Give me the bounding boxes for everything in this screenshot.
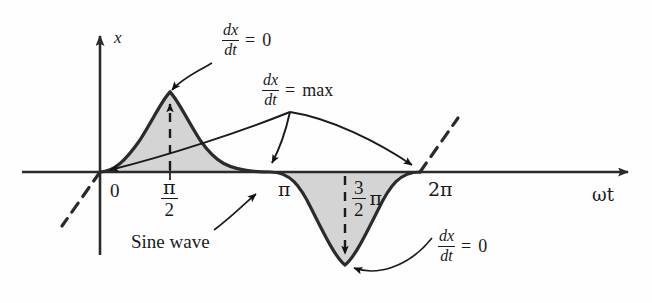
tick-label-two-pi: 2π [428, 180, 453, 199]
leader-slope-twopi [290, 112, 412, 165]
trough-derivative-numerator: dx [438, 228, 455, 245]
annotation-trough-derivative: dx dt = 0 [438, 228, 487, 265]
half-pi-numerator: π [161, 178, 178, 197]
x-axis-label: ωt [592, 186, 614, 204]
three-half-pi-suffix: π [370, 189, 383, 208]
tick-label-zero: 0 [110, 181, 120, 200]
annotation-slope-max-derivative: dx dt = max [262, 72, 333, 109]
annotation-peak-derivative: dx dt = 0 [222, 22, 271, 59]
leader-peak [172, 63, 212, 90]
trough-derivative-equals: = [461, 237, 471, 255]
tick-label-pi: π [278, 180, 291, 199]
leader-slope-pi [272, 112, 290, 163]
sine-wave-plot [0, 0, 652, 303]
sine-wave-figure: x ωt 0 π 2 π 3 2 π 2π dx dt = [0, 0, 652, 303]
tangent-extension-origin [62, 172, 100, 226]
slope-max-derivative-numerator: dx [262, 72, 279, 89]
shaded-region-negative [270, 172, 420, 265]
leader-sine-wave [214, 194, 256, 230]
y-axis-label: x [114, 29, 122, 46]
sine-wave-caption: Sine wave [131, 232, 210, 251]
tangent-extension-twopi [420, 118, 458, 172]
trough-derivative-denominator: dt [438, 248, 455, 265]
three-half-pi-denominator: 2 [352, 200, 366, 219]
tick-label-half-pi: π 2 [161, 178, 178, 220]
peak-derivative-denominator: dt [222, 42, 239, 59]
peak-derivative-numerator: dx [222, 22, 239, 39]
leader-trough [354, 238, 432, 271]
trough-derivative-value: 0 [478, 237, 487, 255]
slope-max-derivative-equals: = [285, 81, 295, 99]
peak-derivative-value: 0 [262, 31, 271, 49]
three-half-pi-numerator: 3 [352, 178, 366, 197]
peak-derivative-equals: = [245, 31, 255, 49]
slope-max-derivative-value: max [302, 81, 333, 99]
half-pi-denominator: 2 [161, 200, 178, 219]
slope-max-derivative-denominator: dt [262, 92, 279, 109]
tick-label-three-half-pi: 3 2 π [352, 178, 382, 220]
